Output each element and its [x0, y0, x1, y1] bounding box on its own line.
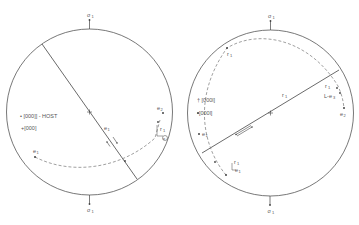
left-r1-label: r	[160, 126, 162, 132]
svg-text:1: 1	[108, 127, 111, 132]
svg-text:2: 2	[344, 113, 347, 118]
right-legend-host: † [000l]	[197, 97, 216, 103]
right-r1-line-label: r	[282, 92, 284, 98]
svg-text:1: 1	[272, 210, 275, 215]
svg-text:1: 1	[285, 94, 288, 99]
right-dashed-path	[204, 39, 344, 175]
right-r1-top-label: r	[227, 51, 229, 57]
right-e3-label: L-e	[324, 93, 332, 99]
svg-text:1: 1	[328, 85, 331, 90]
right-legend-twin: •[000l]	[197, 110, 213, 116]
right-r1-right-label: r	[325, 83, 327, 89]
right-sigma-top-label: σ	[268, 13, 272, 19]
svg-text:1: 1	[239, 169, 242, 174]
left-sigma-top-label: σ	[87, 12, 91, 18]
left-legend-twin: +[000]	[21, 125, 37, 131]
svg-text:2: 2	[161, 107, 164, 112]
svg-text:1: 1	[92, 14, 95, 19]
left-stereonet: σ 1 σ 1 e 1 e 1 e 2 r 1 e • [000]	[7, 12, 173, 214]
svg-text:1: 1	[37, 150, 40, 155]
left-sigma-bottom-label: σ	[87, 207, 91, 213]
svg-text:1: 1	[273, 15, 276, 20]
svg-text:1: 1	[237, 161, 240, 166]
left-dashed-path	[35, 120, 160, 167]
svg-text:1: 1	[92, 209, 95, 214]
right-r1-bottom-label: r	[234, 159, 236, 165]
right-sigma-bottom-label: σ	[268, 208, 272, 214]
svg-text:1: 1	[163, 128, 166, 133]
left-legend-host: • [000]] - HOST	[20, 113, 58, 119]
svg-text:1: 1	[206, 133, 209, 138]
svg-text:1: 1	[230, 53, 233, 58]
right-stereonet: σ 1 σ 1 r 1 r 1 r 1 L-e 3 e 2	[188, 13, 354, 215]
stereonet-diagrams: σ 1 σ 1 e 1 e 1 e 2 r 1 e • [000]	[0, 0, 359, 225]
svg-text:3: 3	[333, 95, 336, 100]
